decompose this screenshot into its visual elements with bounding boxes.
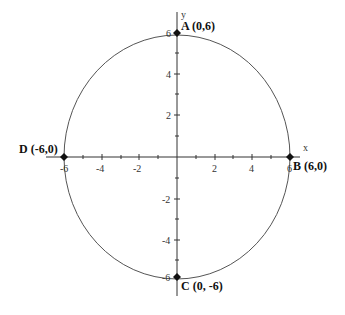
- x-axis-label: x: [303, 142, 308, 153]
- y-tick-label: 6: [166, 28, 171, 39]
- y-tick-label: 4: [166, 69, 171, 80]
- x-tick-label: -4: [96, 163, 104, 174]
- x-tick-label: 2: [212, 163, 217, 174]
- point-d-label: D (-6,0): [19, 142, 58, 156]
- point-c-marker: [173, 273, 181, 281]
- x-tick-label: -6: [60, 163, 68, 174]
- y-tick-label: -4: [162, 235, 170, 246]
- point-a-marker: [173, 29, 181, 37]
- circle-plot: -6 -4 -2 2 4 6 6 4 2 -2 -4 -6 x y A (0,6…: [0, 0, 345, 315]
- y-tick-label: -2: [162, 194, 170, 205]
- y-tick-label: 2: [166, 110, 171, 121]
- point-d-marker: [60, 153, 68, 161]
- point-a-label: A (0,6): [181, 19, 215, 33]
- x-tick-label: 6: [287, 163, 292, 174]
- x-tick-label: 4: [249, 163, 254, 174]
- y-tick-label: -6: [162, 272, 170, 283]
- point-c-label: C (0, -6): [181, 279, 223, 293]
- x-tick-label: -2: [133, 163, 141, 174]
- point-b-label: B (6,0): [293, 159, 327, 173]
